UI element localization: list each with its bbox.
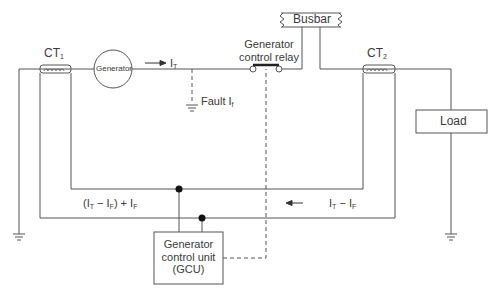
fault-current-label: Fault If (201, 95, 234, 109)
ct1-label: CT1 (44, 47, 64, 61)
ct2-coil (367, 69, 387, 71)
junction-dot (176, 186, 183, 193)
current-arrow-left (286, 201, 292, 206)
gcu-label: Generator control unit (GCU) (154, 238, 223, 276)
current-arrow-right (160, 61, 166, 66)
total-current-label: IT (170, 57, 177, 71)
load-label: Load (440, 115, 467, 129)
junction-dot (199, 215, 206, 222)
left-loop-current-label: (IT − IF) + IF (83, 197, 137, 211)
ct2-label: CT2 (367, 47, 387, 61)
ground-symbols (13, 105, 457, 240)
generator-label: Generator (96, 64, 132, 73)
relay-label: Generator control relay (229, 38, 309, 63)
right-loop-current-label: IT − IF (329, 197, 356, 211)
ct1-coil (44, 69, 64, 71)
busbar-label: Busbar (293, 13, 331, 27)
